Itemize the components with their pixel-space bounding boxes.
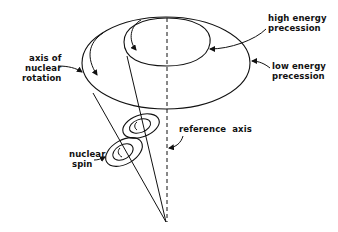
nuclear-spin-label: nuclear spin: [69, 149, 105, 169]
reference-axis-pointer-arrow-icon: [169, 136, 183, 148]
label-line: precession: [272, 71, 326, 81]
cone-inner-line: [127, 56, 166, 222]
low-energy-precession-label: low energy precession: [272, 61, 326, 81]
lower-spin-arrow-icon: [118, 148, 122, 157]
label-line: nuclear: [22, 63, 62, 73]
precession-diagram: [0, 0, 338, 232]
label-line: axis of: [22, 53, 62, 63]
high-energy-precession-label: high energy precession: [268, 13, 327, 33]
label-line: high energy: [268, 13, 327, 23]
label-line: precession: [268, 23, 327, 33]
low-energy-pointer-arrow-icon: [252, 61, 270, 68]
label-line: reference axis: [179, 124, 252, 134]
axis-of-nuclear-rotation-label: axis of nuclear rotation: [22, 53, 62, 83]
outer-rotation-arrow-icon: [90, 33, 103, 75]
reference-axis-label: reference axis: [179, 124, 252, 134]
label-line: rotation: [22, 73, 62, 83]
label-line: spin: [69, 159, 105, 169]
label-line: nuclear: [69, 149, 105, 159]
upper-spin-arrow-icon: [135, 122, 137, 130]
low-energy-precession-ellipse: [82, 17, 250, 109]
label-line: low energy: [272, 61, 326, 71]
